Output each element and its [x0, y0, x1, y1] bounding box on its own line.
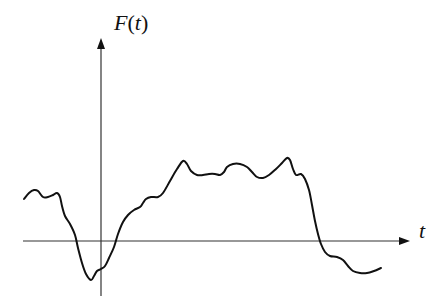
y-axis-label: F(t) — [114, 12, 148, 34]
function-plot — [0, 0, 447, 307]
x-axis-label: t — [419, 220, 425, 242]
y-label-close-paren: ) — [141, 10, 148, 35]
x-axis-arrow-icon — [399, 237, 410, 245]
y-axis-arrow-icon — [97, 38, 105, 49]
y-label-open-paren: ( — [127, 10, 134, 35]
y-label-func: F — [114, 10, 127, 35]
function-curve — [24, 158, 381, 280]
